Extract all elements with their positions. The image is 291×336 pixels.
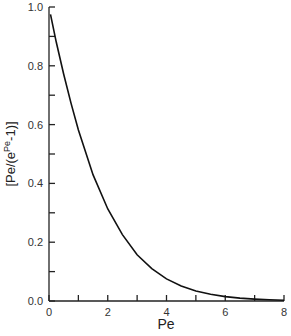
x-tick-label: 2 — [105, 306, 111, 318]
data-curve — [51, 14, 285, 300]
chart: 0.00.20.40.60.81.002468 Pe [Pe/(ePe-1)] — [0, 0, 291, 336]
tick-labels: 0.00.20.40.60.81.002468 — [28, 1, 287, 318]
svg-text:[Pe/(ePe-1)]: [Pe/(ePe-1)] — [2, 121, 18, 186]
y-tick-label: 0.0 — [28, 295, 43, 307]
x-tick-label: 8 — [281, 306, 287, 318]
y-axis-label: [Pe/(ePe-1)] — [2, 121, 18, 186]
x-tick-label: 0 — [46, 306, 52, 318]
y-tick-label: 0.8 — [28, 60, 43, 72]
ticks — [49, 7, 284, 301]
x-tick-label: 6 — [222, 306, 228, 318]
x-axis-label: Pe — [157, 316, 174, 332]
y-tick-label: 1.0 — [28, 1, 43, 13]
y-tick-label: 0.4 — [28, 177, 43, 189]
y-tick-label: 0.2 — [28, 236, 43, 248]
y-tick-label: 0.6 — [28, 119, 43, 131]
axes — [49, 7, 284, 301]
